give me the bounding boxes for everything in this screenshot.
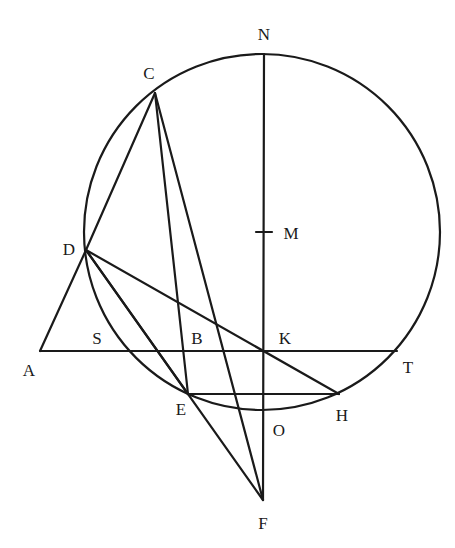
segment-ce [155, 93, 188, 394]
segment-cf [155, 93, 263, 500]
label-point-c: C [143, 64, 154, 83]
segment-cd [86, 93, 155, 250]
label-point-f: F [258, 514, 267, 533]
label-point-a: A [23, 361, 36, 380]
label-point-m: M [283, 224, 298, 243]
label-point-k: K [279, 329, 292, 348]
label-point-n: N [258, 25, 270, 44]
label-point-s: S [92, 329, 101, 348]
point-labels: NMCDASBKTEHOF [23, 25, 414, 533]
segments [40, 54, 397, 500]
segment-dh [86, 250, 339, 394]
label-point-b: B [191, 329, 202, 348]
label-point-h: H [336, 406, 348, 425]
label-point-e: E [176, 400, 186, 419]
segment-da [40, 250, 86, 351]
label-point-d: D [63, 240, 75, 259]
label-point-o: O [273, 421, 285, 440]
segment-df [86, 250, 263, 500]
geometry-diagram: NMCDASBKTEHOF [0, 0, 455, 548]
label-point-t: T [403, 358, 414, 377]
segment-nf [263, 54, 264, 500]
